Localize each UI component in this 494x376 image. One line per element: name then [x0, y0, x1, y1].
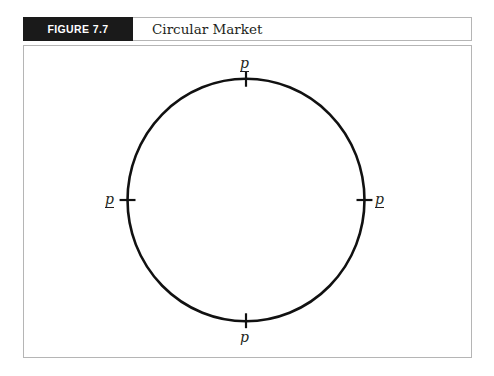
figure-body-panel	[23, 45, 472, 358]
price-label-top: p	[240, 56, 249, 72]
figure-header: FIGURE 7.7 Circular Market	[23, 17, 472, 41]
figure-number-box: FIGURE 7.7	[23, 17, 133, 41]
figure-title: Circular Market	[152, 21, 262, 37]
price-label-left: p	[105, 192, 114, 208]
figure-container: FIGURE 7.7 Circular Market p p p p	[0, 0, 494, 376]
price-label-bottom: p	[240, 330, 249, 344]
market-circle	[128, 79, 365, 321]
price-label-right: p	[375, 192, 384, 208]
figure-number-label: FIGURE 7.7	[47, 23, 108, 35]
circular-market-diagram	[24, 46, 471, 357]
figure-title-cell: Circular Market	[133, 17, 472, 41]
